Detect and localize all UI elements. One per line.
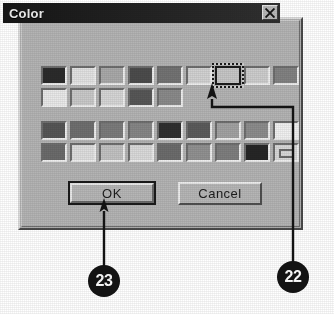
color-swatch[interactable] — [41, 88, 67, 107]
swatch-fill — [130, 123, 152, 138]
color-swatch[interactable] — [244, 121, 270, 140]
swatch-fill — [43, 68, 65, 83]
swatch-fill — [101, 123, 123, 138]
color-swatch[interactable] — [128, 121, 154, 140]
color-swatch[interactable] — [273, 66, 299, 85]
swatch-fill — [275, 145, 297, 160]
color-swatch[interactable] — [99, 66, 125, 85]
color-swatch[interactable] — [215, 121, 241, 140]
swatch-fill — [217, 123, 239, 138]
color-swatch[interactable] — [186, 66, 212, 85]
color-swatch[interactable] — [128, 143, 154, 162]
color-swatch[interactable] — [244, 143, 270, 162]
swatch-fill — [101, 68, 123, 83]
swatch-fill — [188, 68, 210, 83]
color-swatch[interactable] — [99, 121, 125, 140]
callout-badge-22: 22 — [278, 262, 308, 292]
swatch-fill — [275, 68, 297, 83]
swatch-fill — [246, 123, 268, 138]
swatch-fill — [159, 90, 181, 105]
color-swatch[interactable] — [157, 143, 183, 162]
swatch-fill — [159, 68, 181, 83]
selected-color-swatch[interactable] — [215, 66, 241, 85]
color-swatch[interactable] — [99, 143, 125, 162]
color-swatch[interactable] — [186, 143, 212, 162]
swatch-fill — [275, 123, 297, 138]
ok-button-label: OK — [102, 186, 122, 201]
color-swatch[interactable] — [99, 88, 125, 107]
callout-badge-23: 23 — [89, 266, 119, 296]
swatch-fill — [72, 68, 94, 83]
swatch-fill — [188, 145, 210, 160]
selection-border — [215, 66, 241, 85]
swatch-fill — [130, 90, 152, 105]
color-swatch[interactable] — [244, 66, 270, 85]
swatch-fill — [101, 145, 123, 160]
dialog-titlebar[interactable]: Color — [3, 3, 280, 23]
swatch-fill — [246, 68, 268, 83]
color-swatch[interactable] — [41, 121, 67, 140]
color-swatch[interactable] — [70, 143, 96, 162]
swatch-fill — [101, 90, 123, 105]
callout-number: 22 — [285, 268, 302, 286]
color-swatch[interactable] — [41, 66, 67, 85]
basic-colors-grid — [41, 66, 299, 107]
dialog-title: Color — [9, 6, 44, 21]
color-swatch[interactable] — [157, 66, 183, 85]
cancel-button[interactable]: Cancel — [178, 182, 262, 205]
color-swatch[interactable] — [70, 88, 96, 107]
swatch-fill — [43, 90, 65, 105]
cancel-button-label: Cancel — [198, 186, 241, 201]
custom-color-empty-slot[interactable] — [273, 143, 299, 162]
color-swatch[interactable] — [215, 143, 241, 162]
color-swatch[interactable] — [128, 66, 154, 85]
swatch-fill — [43, 145, 65, 160]
color-swatch[interactable] — [186, 121, 212, 140]
swatch-fill — [159, 145, 181, 160]
custom-colors-grid — [41, 121, 299, 162]
color-swatch[interactable] — [273, 121, 299, 140]
swatch-fill — [217, 145, 239, 160]
swatch-fill — [43, 123, 65, 138]
color-swatch[interactable] — [157, 121, 183, 140]
callout-number: 23 — [96, 272, 113, 290]
swatch-fill — [130, 145, 152, 160]
color-swatch[interactable] — [128, 88, 154, 107]
swatch-fill — [72, 145, 94, 160]
close-icon — [265, 8, 275, 18]
swatch-fill — [246, 145, 268, 160]
ok-button[interactable]: OK — [68, 181, 156, 205]
swatch-fill — [72, 123, 94, 138]
close-button[interactable] — [262, 5, 278, 20]
swatch-fill — [130, 68, 152, 83]
color-swatch[interactable] — [157, 88, 183, 107]
color-swatch[interactable] — [70, 66, 96, 85]
color-swatch[interactable] — [41, 143, 67, 162]
figure-canvas: Color — [0, 0, 334, 314]
color-swatch[interactable] — [70, 121, 96, 140]
swatch-fill — [188, 123, 210, 138]
swatch-fill — [159, 123, 181, 138]
swatch-fill — [72, 90, 94, 105]
